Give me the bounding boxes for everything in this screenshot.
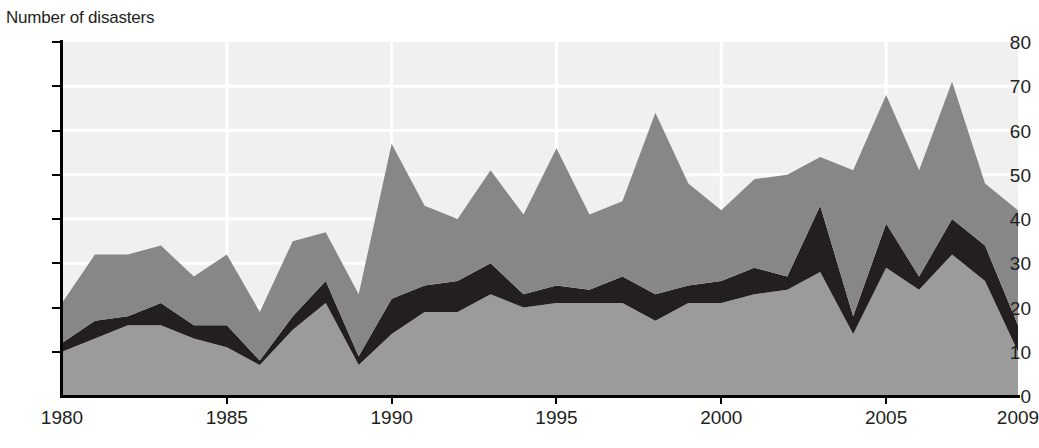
y-tick-label: 40	[985, 210, 1031, 229]
x-tick-label: 1990	[371, 408, 413, 427]
y-tick-label: 30	[985, 254, 1031, 273]
x-tick-label: 2005	[865, 408, 907, 427]
y-tick-label: 0	[985, 387, 1031, 406]
x-tick-label: 1985	[206, 408, 248, 427]
y-tick	[52, 41, 62, 43]
x-tick-label: 1980	[41, 408, 83, 427]
x-tick-label: 2009	[997, 408, 1039, 427]
x-axis-line	[60, 395, 1020, 398]
x-tick-label: 1995	[535, 408, 577, 427]
y-tick	[52, 218, 62, 220]
y-tick	[52, 262, 62, 264]
plot-area	[62, 42, 1018, 396]
y-tick-label: 50	[985, 166, 1031, 185]
x-tick	[391, 396, 393, 404]
x-tick	[555, 396, 557, 404]
y-tick-label: 20	[985, 299, 1031, 318]
y-tick	[52, 85, 62, 87]
y-tick	[52, 130, 62, 132]
y-tick-label: 10	[985, 343, 1031, 362]
x-tick	[720, 396, 722, 404]
y-tick	[52, 351, 62, 353]
stacked-area-svg	[62, 42, 1018, 396]
x-tick	[226, 396, 228, 404]
y-tick-label: 70	[985, 77, 1031, 96]
y-tick	[52, 174, 62, 176]
y-axis-title: Number of disasters	[6, 8, 154, 28]
y-tick-label: 60	[985, 122, 1031, 141]
x-tick	[885, 396, 887, 404]
y-tick-label: 80	[985, 33, 1031, 52]
y-tick	[52, 307, 62, 309]
x-tick-label: 2000	[700, 408, 742, 427]
